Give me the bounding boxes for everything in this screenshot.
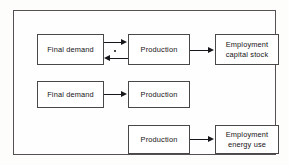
arrow-head <box>104 55 110 61</box>
arrow-shaft <box>104 42 122 43</box>
node-production-row3: Production <box>128 125 190 154</box>
arrow-shaft <box>110 58 128 59</box>
arrow-head <box>208 136 214 142</box>
node-final-demand-row2: Final demand <box>37 81 104 108</box>
arrow-shaft <box>190 139 209 140</box>
node-production-row2: Production <box>128 81 190 108</box>
arrow-head <box>208 47 214 53</box>
feedback-dot-marker <box>114 50 116 52</box>
arrow-shaft <box>190 50 209 51</box>
diagram-frame: Final demand Production Employment capit… <box>13 10 276 155</box>
node-final-demand-row1: Final demand <box>37 34 104 65</box>
arrow-head <box>121 39 127 45</box>
flow-diagram: Final demand Production Employment capit… <box>0 0 289 165</box>
node-production-row1: Production <box>128 34 190 65</box>
node-employment-capital-stock: Employment capital stock <box>215 34 279 65</box>
node-employment-energy-use: Employment energy use <box>215 125 279 154</box>
arrow-shaft <box>104 94 122 95</box>
arrow-head <box>121 91 127 97</box>
